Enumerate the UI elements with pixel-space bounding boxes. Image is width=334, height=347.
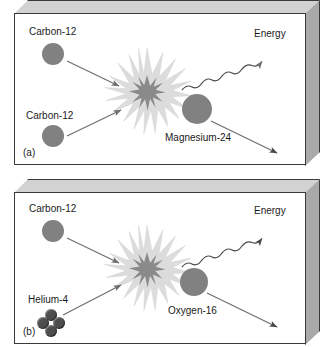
panel-a-right-bevel xyxy=(305,0,320,166)
label-energy-b: Energy xyxy=(254,205,286,216)
helium-nucleon-bottom xyxy=(45,325,57,337)
nucleus-carbon-12-a-bottom xyxy=(42,125,64,147)
arrow-product-b xyxy=(207,293,277,327)
nucleus-carbon-12-a-top xyxy=(42,43,64,65)
label-carbon-12-b: Carbon-12 xyxy=(29,203,76,214)
nucleus-oxygen-16-b xyxy=(180,268,208,296)
nucleus-carbon-12-b xyxy=(42,220,64,242)
label-oxygen-16-b: Oxygen-16 xyxy=(168,305,217,316)
panel-a-tag: (a) xyxy=(23,147,35,158)
nucleus-magnesium-24-a xyxy=(182,94,212,124)
nucleus-helium-4-cluster xyxy=(37,309,65,337)
panel-a-face: Carbon-12 Carbon-12 Magnesium-24 Energy … xyxy=(14,13,306,165)
fusion-diagram-figure: Carbon-12 Carbon-12 Magnesium-24 Energy … xyxy=(0,0,334,347)
label-helium-4-b: Helium-4 xyxy=(28,294,68,305)
arrow-reactant-a-top xyxy=(67,61,119,86)
label-carbon-12-a-top: Carbon-12 xyxy=(29,26,76,37)
arrow-reactant-a-bottom xyxy=(67,110,121,136)
fusion-burst-a xyxy=(105,48,192,134)
label-magnesium-24-a: Magnesium-24 xyxy=(165,132,231,143)
panel-b-face: Carbon-12 Helium-4 Oxygen-16 Energy (b) xyxy=(14,192,306,344)
panel-b-right-bevel xyxy=(305,179,320,345)
energy-wave-b xyxy=(182,239,262,268)
fusion-burst-b xyxy=(105,225,192,311)
panel-b-tag: (b) xyxy=(23,326,35,337)
label-carbon-12-a-bottom: Carbon-12 xyxy=(26,110,73,121)
arrow-reactant-b-carbon xyxy=(67,238,119,263)
arrow-reactant-b-helium xyxy=(63,285,121,315)
panel-b-top-bevel xyxy=(14,179,320,193)
label-energy-a: Energy xyxy=(254,28,286,39)
energy-wave-a xyxy=(182,62,262,91)
panel-a-top-bevel xyxy=(14,0,320,14)
